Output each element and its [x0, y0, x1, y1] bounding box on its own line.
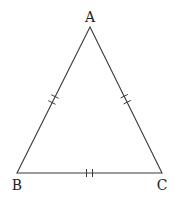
vertex-label-b: B — [12, 178, 22, 192]
triangle-abc — [17, 27, 162, 173]
triangle-diagram: A B C — [0, 0, 179, 199]
vertex-label-c: C — [157, 178, 168, 192]
vertex-label-a: A — [85, 10, 95, 24]
triangle-svg — [0, 0, 179, 199]
